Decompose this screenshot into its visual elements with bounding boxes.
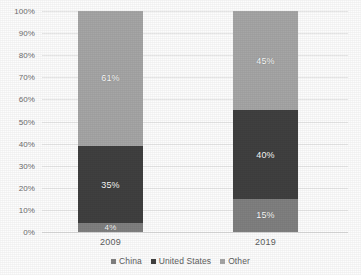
y-axis-tick-label: 20% [19,183,35,192]
legend-swatch-icon [151,259,156,264]
y-axis-tick-label: 80% [19,51,35,60]
y-axis-tick-label: 30% [19,161,35,170]
y-axis-tick-label: 90% [19,29,35,38]
chart-legend: ChinaUnited StatesOther [0,256,361,266]
legend-label: China [119,256,142,266]
legend-swatch-icon [220,259,225,264]
bar-segment-label: 61% [101,73,120,83]
bar-2009: 4%35%61% [78,11,143,232]
legend-label: United States [159,256,211,266]
bar-segment: 15% [233,199,298,232]
bar-segment: 40% [233,110,298,198]
y-axis-tick-label: 10% [19,205,35,214]
x-axis-label-2009: 2009 [100,237,121,247]
x-axis-label-2019: 2019 [255,237,276,247]
bar-segment-label: 4% [105,223,117,232]
axis-baseline [42,232,348,233]
plot-area: 4%35%61%15%40%45% [42,11,348,232]
y-axis-tick-label: 70% [19,73,35,82]
y-axis-tick-label: 50% [19,117,35,126]
y-axis-tick-label: 60% [19,95,35,104]
bar-2019: 15%40%45% [233,11,298,232]
legend-item[interactable]: United States [151,256,211,266]
bar-segment: 45% [233,11,298,110]
bar-segment-label: 40% [256,150,275,160]
stacked-bar-chart: 100%90%80%70%60%50%40%30%20%10%0% 4%35%6… [0,0,361,275]
bar-segment-label: 15% [256,210,275,220]
bar-segment-label: 45% [256,56,275,66]
bar-segment: 61% [78,11,143,146]
legend-item[interactable]: China [111,256,142,266]
bar-segment: 4% [78,223,143,232]
legend-label: Other [228,256,250,266]
y-axis: 100%90%80%70%60%50%40%30%20%10%0% [0,0,38,275]
bar-segment-label: 35% [101,180,120,190]
legend-swatch-icon [111,259,116,264]
y-axis-tick-label: 40% [19,139,35,148]
y-axis-tick-label: 100% [14,7,35,16]
legend-item[interactable]: Other [220,256,250,266]
bar-segment: 35% [78,146,143,223]
y-axis-tick-label: 0% [23,228,35,237]
